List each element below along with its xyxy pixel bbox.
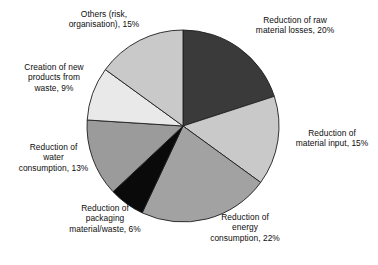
pie-slice-group [87,30,279,222]
slice-label-creation-of-new-products: Creation of new products from waste, 9% [4,62,104,93]
slice-label-raw-material-losses: Reduction of raw material losses, 20% [229,15,361,36]
slice-label-others: Others (risk, organisation), 15% [48,9,160,30]
slice-label-material-input: Reduction of material input, 15% [286,128,378,149]
pie-chart-figure: Others (risk, organisation), 15% Reducti… [0,0,378,265]
slice-label-energy-consumption: Reduction of energy consumption, 22% [190,212,300,243]
slice-label-packaging-material-waste: Reduction of packaging material/waste, 6… [44,203,166,234]
slice-label-water-consumption: Reduction of water consumption, 13% [2,142,105,173]
